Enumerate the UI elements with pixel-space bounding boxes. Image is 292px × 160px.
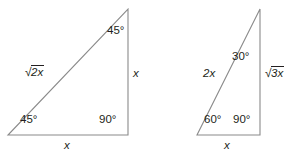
triangle-30-60-90-side-hypotenuse: 2x [203, 68, 215, 80]
triangle-45-45-90-angle-top-right: 45° [107, 25, 124, 37]
radical-expression: √2x [25, 66, 44, 78]
triangle-45-45-90-side-base: x [64, 140, 70, 152]
triangle-45-45-90-angle-bottom-right: 90° [99, 114, 116, 126]
triangle-45-45-90-side-hypotenuse: √2x [25, 66, 44, 78]
geometry-figure: 45° 45° 90° √2x x x 30° 60° 90° 2x √3x x [0, 0, 292, 160]
triangle-30-60-90-side-vertical: √3x [265, 67, 284, 79]
triangles-drawing [0, 0, 292, 160]
triangle-45-45-90-angle-bottom-left: 45° [20, 114, 37, 126]
radicand: 3x [271, 66, 284, 79]
triangle-30-60-90-side-base: x [224, 140, 230, 152]
triangle-30-60-90-angle-bottom-right: 90° [233, 114, 250, 126]
radical-expression: √3x [265, 67, 284, 79]
triangle-30-60-90-angle-bottom-left: 60° [204, 114, 221, 126]
triangle-30-60-90-angle-top-right: 30° [232, 51, 249, 63]
triangle-45-45-90-side-vertical: x [133, 68, 139, 80]
radicand: 2x [31, 65, 44, 78]
